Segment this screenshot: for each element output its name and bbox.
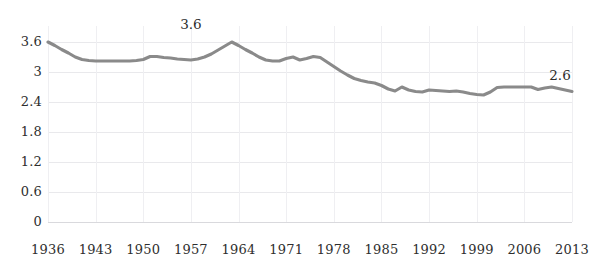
- data-series-group: [48, 42, 572, 95]
- x-axis-tick-label: 1943: [79, 243, 113, 257]
- data-point-label: 3.6: [180, 17, 201, 31]
- x-axis-tick-label: 1971: [269, 243, 303, 257]
- y-axis-tick: 3: [0, 65, 42, 78]
- x-axis-tick-label: 1999: [460, 243, 494, 257]
- y-axis-tick-label: 1.2: [21, 155, 42, 168]
- y-axis-tick-label: 3: [34, 65, 42, 78]
- x-axis-tick-label: 1978: [317, 243, 351, 257]
- y-axis-tick: 3.6: [0, 35, 42, 48]
- y-axis-tick: 1.8: [0, 125, 42, 138]
- x-axis-tick-label: 1936: [31, 243, 65, 257]
- data-line-fertility-rate: [48, 42, 572, 95]
- y-axis-tick-label: 1.8: [21, 125, 42, 138]
- x-axis-tick-label: 1950: [126, 243, 160, 257]
- y-axis-tick-label: 3.6: [21, 35, 42, 48]
- x-axis-tick-label: 1957: [174, 243, 208, 257]
- data-point-label: 2.6: [549, 68, 570, 82]
- x-axis-tick-label: 1985: [365, 243, 399, 257]
- horizontal-gridlines: [48, 43, 572, 223]
- y-axis-tick: 0.6: [0, 185, 42, 198]
- y-axis-tick-label: 2.4: [21, 95, 42, 108]
- y-axis-tick-label: 0: [34, 215, 42, 228]
- x-axis-tick-label: 2006: [507, 243, 541, 257]
- y-axis-tick: 0: [0, 215, 42, 228]
- y-axis-tick: 1.2: [0, 155, 42, 168]
- y-axis-tick: 2.4: [0, 95, 42, 108]
- x-axis-tick-label: 1992: [412, 243, 446, 257]
- x-axis-tick-label: 2013: [555, 243, 589, 257]
- y-axis-tick-label: 0.6: [21, 185, 42, 198]
- x-axis-tick-label: 1964: [222, 243, 256, 257]
